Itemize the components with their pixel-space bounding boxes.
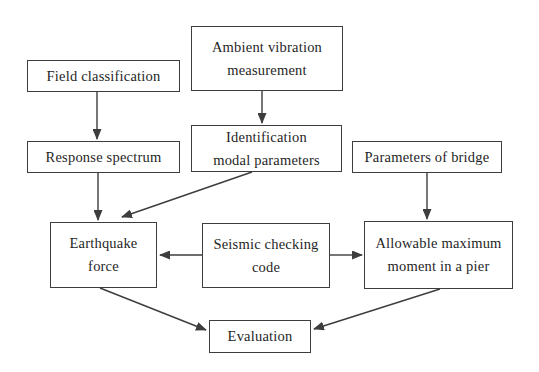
ambient-vibration-label-line2: measurement — [227, 59, 307, 82]
seismic-code-label-line1: Seismic checking — [213, 233, 318, 256]
allowable-maximum-moment-box: Allowable maximum moment in a pier — [364, 221, 513, 289]
identification-label-line2: modal parameters — [213, 149, 320, 172]
earthquake-force-label-line2: force — [88, 255, 119, 278]
identification-modal-parameters-box: Identification modal parameters — [191, 125, 342, 172]
evaluation-label: Evaluation — [228, 325, 293, 348]
field-classification-box: Field classification — [27, 60, 180, 92]
evaluation-box: Evaluation — [209, 320, 311, 353]
arrow-allowable-maximum-to-evaluation — [314, 289, 440, 329]
earthquake-force-label-line1: Earthquake — [69, 232, 137, 255]
identification-label-line1: Identification — [226, 126, 307, 149]
seismic-checking-code-box: Seismic checking code — [202, 223, 330, 288]
response-spectrum-label: Response spectrum — [46, 146, 162, 169]
arrow-earthquake-force-to-evaluation — [100, 288, 206, 330]
parameters-of-bridge-box: Parameters of bridge — [352, 141, 502, 173]
arrow-identification-to-earthquake-force — [122, 172, 252, 217]
flowchart-diagram: Field classification Ambient vibration m… — [0, 0, 539, 372]
parameters-of-bridge-label: Parameters of bridge — [365, 146, 490, 169]
ambient-vibration-box: Ambient vibration measurement — [191, 26, 343, 91]
response-spectrum-box: Response spectrum — [27, 141, 180, 173]
seismic-code-label-line2: code — [252, 256, 280, 279]
allowable-maximum-label-line2: moment in a pier — [388, 255, 490, 278]
field-classification-label: Field classification — [47, 65, 161, 88]
ambient-vibration-label-line1: Ambient vibration — [212, 36, 322, 59]
allowable-maximum-label-line1: Allowable maximum — [375, 232, 501, 255]
earthquake-force-box: Earthquake force — [50, 222, 157, 288]
